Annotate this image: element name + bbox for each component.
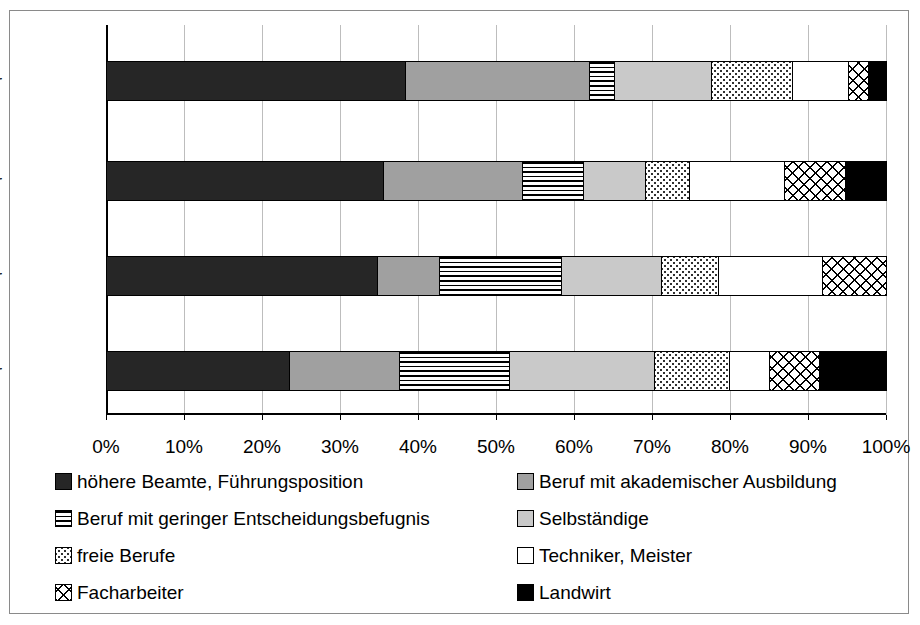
- legend-label: Techniker, Meister: [539, 546, 692, 565]
- bar-segment: [106, 161, 384, 201]
- x-axis-tick-label: 10%: [149, 437, 219, 456]
- tick-mark: [262, 415, 263, 420]
- legend-label: freie Berufe: [77, 546, 175, 565]
- legend-swatch-icon: [517, 510, 534, 527]
- bar-segment: [769, 351, 820, 391]
- bar-segment: [583, 161, 646, 201]
- legend-item[interactable]: Beruf mit geringer Entscheidungsbefugnis: [55, 500, 495, 537]
- x-axis-tick-label: 50%: [461, 437, 531, 456]
- bar-segment: [718, 256, 823, 296]
- tick-mark: [106, 415, 107, 420]
- bar-segment: [509, 351, 655, 391]
- x-axis-tick-label: 60%: [539, 437, 609, 456]
- tick-mark: [730, 415, 731, 420]
- legend-item[interactable]: Techniker, Meister: [517, 537, 920, 574]
- bar-segment: [661, 256, 720, 296]
- legend-label: höhere Beamte, Führungsposition: [77, 472, 363, 491]
- bar-segment: [106, 351, 291, 391]
- x-axis-tick-label: 80%: [695, 437, 765, 456]
- y-axis-category-label: 1970er: [0, 362, 2, 381]
- legend-label: Facharbeiter: [77, 583, 184, 602]
- legend-label: Landwirt: [539, 583, 611, 602]
- legend-item[interactable]: Landwirt: [517, 574, 920, 611]
- bar-segment: [729, 351, 770, 391]
- bar-segment: [645, 161, 690, 201]
- legend-item[interactable]: Beruf mit akademischer Ausbildung: [517, 463, 920, 500]
- legend-item[interactable]: höhere Beamte, Führungsposition: [55, 463, 495, 500]
- x-axis-tick-label: 90%: [773, 437, 843, 456]
- legend-swatch-icon: [55, 473, 72, 490]
- bar-segment: [589, 61, 615, 101]
- chart-legend: höhere Beamte, FührungspositionBeruf mit…: [30, 463, 896, 607]
- x-axis-tick-label: 40%: [383, 437, 453, 456]
- bar-segment: [654, 351, 730, 391]
- x-axis-tick-label: 30%: [305, 437, 375, 456]
- legend-swatch-icon: [517, 584, 534, 601]
- legend-swatch-icon: [55, 547, 72, 564]
- y-axis-category-label: 2000er: [0, 72, 2, 91]
- tick-mark: [808, 415, 809, 420]
- bar-segment: [845, 161, 887, 201]
- tick-mark: [886, 415, 887, 420]
- x-axis-tick-label: 70%: [617, 437, 687, 456]
- x-axis-tick-label: 0%: [71, 437, 141, 456]
- bar-segment: [784, 161, 847, 201]
- bar-segment: [689, 161, 785, 201]
- bar-segment: [868, 61, 887, 101]
- legend-label: Beruf mit akademischer Ausbildung: [539, 472, 837, 491]
- legend-label: Selbständige: [539, 509, 649, 528]
- bar-row: [106, 351, 886, 391]
- tick-mark: [496, 415, 497, 420]
- y-axis-category-label: 1980er: [0, 267, 2, 286]
- tick-mark: [652, 415, 653, 420]
- bar-segment: [405, 61, 590, 101]
- bar-row: [106, 256, 886, 296]
- legend-swatch-icon: [55, 510, 72, 527]
- x-axis-tick-label: 20%: [227, 437, 297, 456]
- bar-segment: [848, 61, 870, 101]
- y-axis-category-label: 1990er: [0, 172, 2, 191]
- bar-segment: [377, 256, 441, 296]
- bar-segment: [399, 351, 510, 391]
- legend-item[interactable]: Selbständige: [517, 500, 920, 537]
- bar-segment: [614, 61, 712, 101]
- bar-segment: [561, 256, 662, 296]
- tick-mark: [574, 415, 575, 420]
- bar-segment: [106, 256, 378, 296]
- bar-segment: [522, 161, 585, 201]
- legend-item[interactable]: freie Berufe: [55, 537, 495, 574]
- bar-segment: [792, 61, 849, 101]
- bar-segment: [439, 256, 562, 296]
- tick-mark: [184, 415, 185, 420]
- bar-segment: [822, 256, 887, 296]
- bar-segment: [289, 351, 400, 391]
- bar-segment: [106, 61, 406, 101]
- legend-swatch-icon: [517, 547, 534, 564]
- x-axis-tick-label: 100%: [851, 437, 920, 456]
- bar-segment: [383, 161, 523, 201]
- plot-area: 0%10%20%30%40%50%60%70%80%90%100% 2000er…: [106, 25, 886, 415]
- tick-mark: [418, 415, 419, 420]
- legend-column-right: Beruf mit akademischer AusbildungSelbstä…: [517, 463, 920, 611]
- bar-segment: [819, 351, 887, 391]
- chart-frame: 0%10%20%30%40%50%60%70%80%90%100% 2000er…: [9, 10, 909, 614]
- tick-mark: [340, 415, 341, 420]
- legend-item[interactable]: Facharbeiter: [55, 574, 495, 611]
- legend-swatch-icon: [55, 584, 72, 601]
- bar-row: [106, 161, 886, 201]
- legend-label: Beruf mit geringer Entscheidungsbefugnis: [77, 509, 430, 528]
- legend-column-left: höhere Beamte, FührungspositionBeruf mit…: [55, 463, 495, 611]
- legend-swatch-icon: [517, 473, 534, 490]
- bar-segment: [711, 61, 794, 101]
- bar-row: [106, 61, 886, 101]
